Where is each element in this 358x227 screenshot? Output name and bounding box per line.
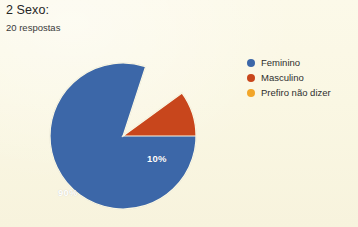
legend-swatch-icon: [247, 89, 255, 97]
legend-swatch-icon: [247, 74, 255, 82]
legend-label-feminino: Feminino: [261, 57, 300, 69]
legend-item-prefiro-nao-dizer[interactable]: Prefiro não dizer: [247, 85, 355, 100]
pie-label-masculino: 10%: [147, 153, 167, 164]
response-count: 20 respostas: [6, 21, 206, 34]
chart-legend: Feminino Masculino Prefiro não dizer: [247, 55, 355, 100]
legend-swatch-icon: [247, 59, 255, 67]
pie-chart: 90% 10%: [0, 40, 240, 227]
legend-label-masculino: Masculino: [261, 72, 304, 84]
page-title: 2 Sexo:: [6, 3, 206, 18]
legend-item-masculino[interactable]: Masculino: [247, 70, 355, 85]
legend-label-prefiro-nao-dizer: Prefiro não dizer: [261, 87, 331, 99]
legend-item-feminino[interactable]: Feminino: [247, 55, 355, 70]
question-header: 2 Sexo: 20 respostas: [6, 3, 206, 34]
pie-label-feminino: 90%: [58, 187, 78, 198]
